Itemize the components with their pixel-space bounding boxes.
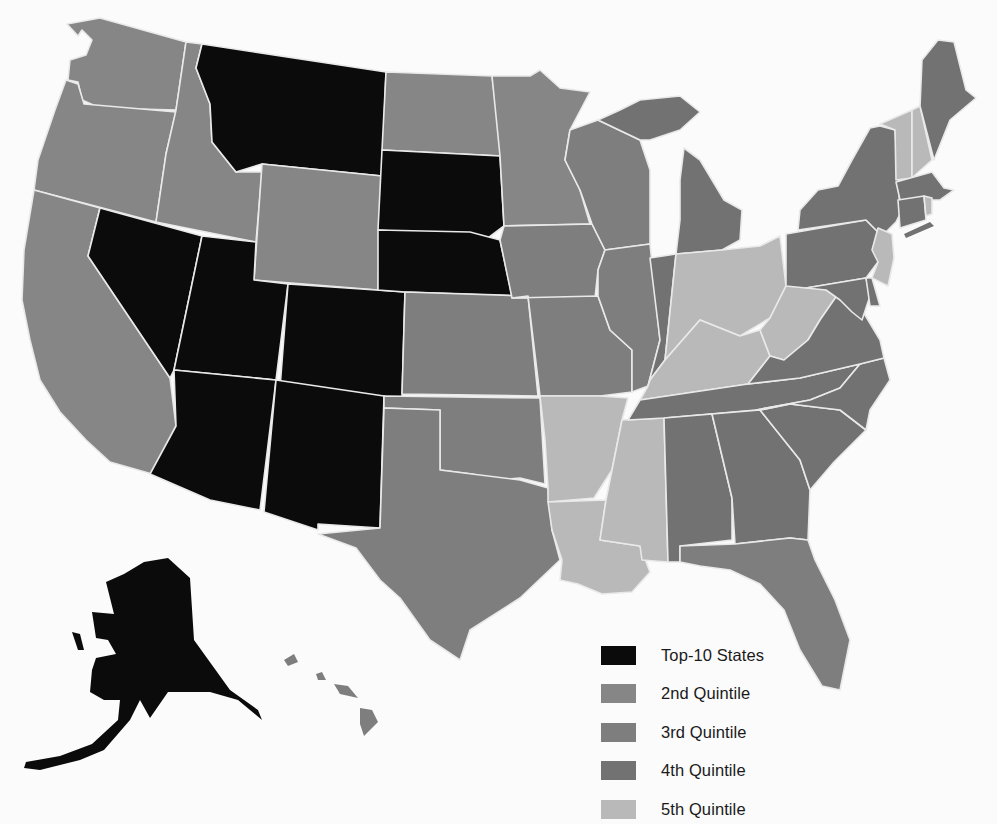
legend-item-q3: 3rd Quintile [601,713,841,752]
state-MT [196,44,386,176]
legend-item-q4: 4th Quintile [601,752,841,791]
state-SD [378,150,504,238]
legend-swatch-top10 [601,646,636,665]
legend-label: 3rd Quintile [661,723,747,742]
state-NE [378,230,512,296]
legend-item-q5: 5th Quintile [601,790,841,824]
legend-swatch-q5 [601,800,636,819]
state-MI [676,148,742,254]
map-svg [0,0,997,824]
legend-swatch-q2 [601,684,636,703]
legend-item-top10: Top-10 States [601,636,841,675]
ak-island [72,632,84,650]
state-NJ [872,228,894,286]
legend-label: 4th Quintile [661,761,746,780]
state-AK [24,558,262,770]
legend-label: 2nd Quintile [661,684,750,703]
state-NM [264,380,384,530]
map-legend: Top-10 States 2nd Quintile 3rd Quintile … [601,636,841,824]
state-KS [402,292,538,396]
state-IA [500,224,605,298]
state-CO [280,284,405,398]
legend-label: 5th Quintile [661,800,746,819]
state-RI [924,196,932,216]
state-ND [382,72,502,156]
legend-swatch-q4 [601,761,636,780]
legend-label: Top-10 States [661,646,764,665]
state-HI [284,654,378,736]
state-WA [67,18,186,110]
state-WY [254,164,382,290]
state-NY [798,126,900,236]
us-choropleth-map: Top-10 States 2nd Quintile 3rd Quintile … [0,0,997,824]
legend-swatch-q3 [601,723,636,742]
legend-item-q2: 2nd Quintile [601,675,841,714]
state-CT [898,196,926,228]
